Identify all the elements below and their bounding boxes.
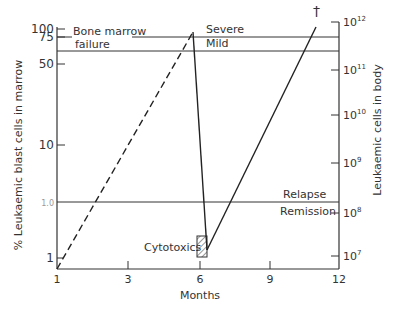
death-dagger-icon: † xyxy=(313,3,320,19)
y-axis-right-label: Leukaemic cells in body xyxy=(371,64,384,196)
right-tick-1e11: 1011 xyxy=(343,63,366,77)
x-ticks xyxy=(128,261,270,269)
left-tick-1: 1 xyxy=(46,251,54,265)
series-treatment-drop xyxy=(193,32,207,250)
leukaemia-growth-chart: 100 75 50 10 1.0 1 1012 1011 1010 109 10… xyxy=(0,0,394,309)
cytotoxics-label: Cytotoxics xyxy=(144,241,202,254)
left-tick-10: 10 xyxy=(39,138,54,152)
right-tick-1e9: 109 xyxy=(343,156,361,170)
right-ticks xyxy=(331,22,339,256)
cytotoxics-hatched-box xyxy=(197,236,207,257)
right-tick-1e12: 1012 xyxy=(343,15,366,29)
left-ticks xyxy=(57,29,65,258)
left-tick-50: 50 xyxy=(39,57,54,71)
mild-label: Mild xyxy=(206,37,229,50)
right-tick-1e8: 108 xyxy=(343,206,361,220)
right-tick-1e7: 107 xyxy=(343,249,361,263)
severe-label: Severe xyxy=(206,23,244,36)
x-tick-9: 9 xyxy=(267,273,274,286)
remission-label: Remission xyxy=(280,205,336,218)
x-tick-3: 3 xyxy=(125,273,132,286)
x-tick-6: 6 xyxy=(197,273,204,286)
left-tick-75: 75 xyxy=(39,30,54,44)
left-tick-1-0: 1.0 xyxy=(41,199,54,208)
y-axis-left-label: % Leukaemic blast cells in marrow xyxy=(12,60,25,250)
right-tick-1e10: 1010 xyxy=(343,108,366,122)
failure-label: failure xyxy=(75,38,110,51)
x-axis-label: Months xyxy=(180,289,220,302)
x-tick-1: 1 xyxy=(54,273,61,286)
relapse-label: Relapse xyxy=(283,188,326,201)
x-tick-12: 12 xyxy=(332,273,346,286)
bone-marrow-label: Bone marrow xyxy=(73,25,146,38)
series-growth-dashed xyxy=(57,32,193,269)
